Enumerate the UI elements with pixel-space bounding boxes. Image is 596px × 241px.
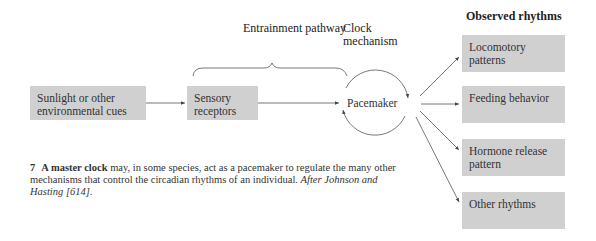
pacemaker-label: Pacemaker xyxy=(347,97,397,109)
output-box-feeding: Feeding behavior xyxy=(462,86,565,123)
sensory-receptors-box: Sensory receptors xyxy=(187,86,258,120)
observed-rhythms-header: Observed rhythms xyxy=(466,9,562,24)
caption-end: . xyxy=(90,186,93,197)
entrainment-pathway-label: Entrainment pathway xyxy=(243,22,346,35)
figure-caption: 7A master clock may, in some species, ac… xyxy=(30,162,400,198)
output-box-hormone: Hormone release pattern xyxy=(462,139,565,176)
caption-lead: A master clock xyxy=(41,162,107,173)
clock-mechanism-label: Clock mechanism xyxy=(343,22,413,48)
output-box-locomotory: Locomotory patterns xyxy=(462,35,565,72)
figure-number: 7 xyxy=(30,162,35,173)
output-box-other: Other rhythms xyxy=(462,192,565,229)
environmental-cues-box: Sunlight or other environmental cues xyxy=(30,86,146,120)
